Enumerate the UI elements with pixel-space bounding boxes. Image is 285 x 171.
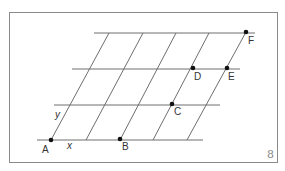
- slanted-grid-lines: [51, 32, 246, 140]
- point-f: F: [244, 30, 254, 46]
- slanted-grid-line: [153, 33, 209, 140]
- point-marker: [49, 138, 54, 143]
- point-b: B: [118, 137, 129, 152]
- point-label: F: [248, 35, 254, 46]
- slanted-grid-line: [51, 33, 109, 140]
- point-label: A: [42, 144, 49, 155]
- point-label: E: [228, 71, 235, 82]
- y-axis-label: y: [54, 109, 61, 120]
- point-marker: [244, 30, 249, 35]
- point-label: C: [174, 106, 181, 117]
- point-d: D: [191, 66, 202, 82]
- slanted-grid-line: [187, 32, 246, 140]
- point-marker: [191, 66, 196, 71]
- slanted-grid-line: [86, 33, 143, 140]
- point-c: C: [170, 102, 182, 117]
- point-label: D: [194, 71, 201, 82]
- x-axis-label: x: [66, 140, 73, 151]
- labelled-points: ABCDEF: [42, 30, 254, 155]
- figure-number: 8: [267, 148, 274, 161]
- point-label: B: [122, 141, 129, 152]
- slanted-grid-line: [120, 33, 176, 140]
- horizontal-grid-lines: [37, 33, 255, 140]
- point-marker: [225, 66, 230, 71]
- oblique-grid-diagram: ABCDEF y x 8: [0, 0, 285, 171]
- point-e: E: [225, 66, 235, 82]
